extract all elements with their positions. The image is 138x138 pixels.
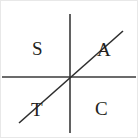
axes-and-ray-graphic	[0, 0, 138, 138]
quadrant-label-c: C	[95, 99, 108, 118]
quadrant-label-s: S	[32, 39, 43, 58]
quadrant-label-t: T	[31, 100, 43, 119]
quadrant-label-a: A	[97, 40, 111, 59]
astc-quadrant-figure: S A T C	[0, 0, 138, 138]
